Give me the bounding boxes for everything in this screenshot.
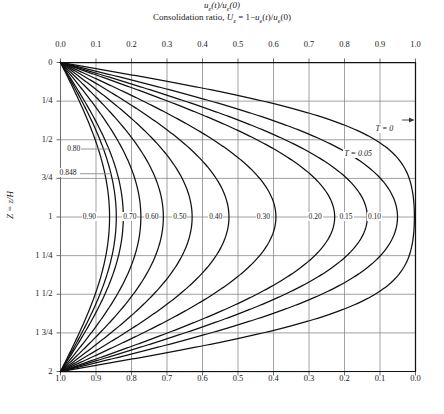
x-tick-top: 0.0 xyxy=(46,39,76,49)
curve-label: 0.20 xyxy=(308,212,323,221)
curve-label: T = 0.05 xyxy=(343,149,373,158)
curve-label: 0.15 xyxy=(338,212,353,221)
chart-figure: ue(t)/ue(0) Z = z/H Consolidation ratio,… xyxy=(0,0,444,414)
x-tick-bottom: 0.1 xyxy=(365,373,395,383)
curve-label: 0.90 xyxy=(82,212,97,221)
x-tick-bottom: 0.7 xyxy=(152,373,182,383)
y-tick: 1 xyxy=(19,211,53,221)
x-tick-top: 0.5 xyxy=(223,39,253,49)
x-tick-bottom: 0.3 xyxy=(294,373,324,383)
x-tick-bottom: 0.9 xyxy=(81,373,111,383)
y-tick: 0 xyxy=(19,57,53,67)
x-tick-top: 0.7 xyxy=(294,39,324,49)
x-tick-bottom: 0.2 xyxy=(330,373,360,383)
y-tick: 1 1/2 xyxy=(19,288,53,298)
x-tick-top: 0.6 xyxy=(259,39,289,49)
plot-canvas xyxy=(0,0,444,414)
y-tick: 3/4 xyxy=(19,172,53,182)
curve-label: 0.10 xyxy=(367,212,382,221)
y-tick: 1/2 xyxy=(19,134,53,144)
x-tick-top: 0.4 xyxy=(188,39,218,49)
y-tick: 1 1/4 xyxy=(19,250,53,260)
curve-label: 0.60 xyxy=(144,212,159,221)
x-tick-top: 0.1 xyxy=(81,39,111,49)
curve-label: 0.70 xyxy=(122,212,137,221)
x-tick-bottom: 0.5 xyxy=(223,373,253,383)
curve-label: 0.50 xyxy=(172,212,187,221)
x-tick-top: 0.2 xyxy=(117,39,147,49)
curve-label: 0.30 xyxy=(256,212,271,221)
x-tick-bottom: 0.8 xyxy=(117,373,147,383)
curve-label: 0.40 xyxy=(208,212,223,221)
curve-label: 0.848 xyxy=(59,168,78,177)
x-tick-bottom: 0.4 xyxy=(259,373,289,383)
x-tick-top: 0.9 xyxy=(365,39,395,49)
x-tick-top: 0.8 xyxy=(330,39,360,49)
y-tick: 1 3/4 xyxy=(19,327,53,337)
x-tick-bottom: 0.6 xyxy=(188,373,218,383)
curve-label: 0.80 xyxy=(66,144,81,153)
curve-label: T = 0 xyxy=(375,124,395,133)
x-tick-top: 0.3 xyxy=(152,39,182,49)
y-tick: 1/4 xyxy=(19,95,53,105)
y-tick: 2 xyxy=(19,366,53,376)
x-tick-top: 1.0 xyxy=(401,39,431,49)
x-tick-bottom: 0.0 xyxy=(401,373,431,383)
